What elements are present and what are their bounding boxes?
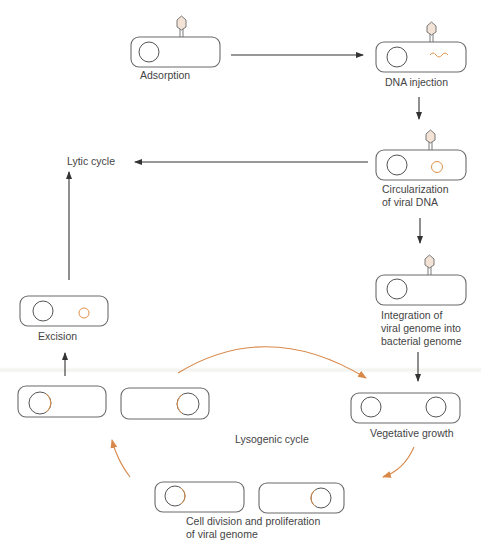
cell-lysogen-left — [18, 386, 106, 417]
label-integration-1: Integration of — [381, 309, 442, 322]
label-circularization-2: of viral DNA — [382, 196, 438, 209]
label-cell-division-2: of viral genome — [186, 528, 258, 541]
phage-icon — [427, 22, 436, 42]
phage-icon — [425, 255, 434, 275]
cell-lysogen-right — [121, 388, 209, 419]
cell-vegetative-growth — [351, 393, 460, 423]
cell-division-left — [155, 482, 244, 512]
lysogenic-arrow-top — [178, 347, 366, 378]
phage-icon — [177, 16, 186, 37]
cell-excision — [20, 296, 108, 326]
label-lysogenic-cycle: Lysogenic cycle — [235, 433, 309, 446]
label-lytic-cycle: Lytic cycle — [67, 155, 115, 168]
label-adsorption: Adsorption — [140, 69, 190, 82]
cell-circularization — [376, 130, 466, 180]
label-integration-3: bacterial genome — [381, 335, 462, 348]
phage-icon — [426, 130, 435, 150]
label-cell-division-1: Cell division and proliferation — [186, 515, 320, 528]
label-dna-injection: DNA injection — [385, 76, 448, 89]
label-integration-2: viral genome into — [381, 322, 461, 335]
label-excision: Excision — [38, 330, 77, 343]
lysogenic-arrow-left — [112, 440, 130, 477]
cell-integration — [376, 255, 466, 305]
label-circularization-1: Circularization — [382, 183, 449, 196]
cell-dna-injection — [376, 22, 466, 72]
cell-adsorption — [131, 16, 220, 67]
cell-division-right — [259, 483, 344, 513]
lysogenic-arrow-right — [383, 447, 414, 477]
label-vegetative-growth: Vegetative growth — [370, 427, 453, 440]
